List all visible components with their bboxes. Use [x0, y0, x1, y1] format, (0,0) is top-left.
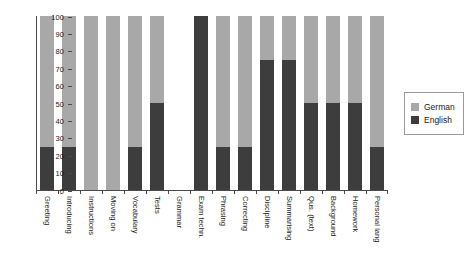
bar-segment-english[interactable] — [348, 103, 362, 190]
x-axis-label-slot: Personal lang — [366, 196, 388, 262]
bar-segment-german[interactable] — [238, 16, 252, 147]
x-axis-label: Qus. (text) — [307, 196, 316, 232]
legend-swatch-icon — [411, 116, 419, 124]
x-axis-tick — [168, 190, 190, 194]
bar-segment-english[interactable] — [260, 60, 274, 191]
bar-slot — [190, 16, 212, 190]
stacked-bar[interactable] — [282, 16, 296, 190]
x-axis-tick — [256, 190, 278, 194]
x-axis-tick-mark — [58, 190, 59, 194]
stacked-bar[interactable] — [260, 16, 274, 190]
bar-segment-english[interactable] — [216, 147, 230, 191]
bar-segment-english[interactable] — [282, 60, 296, 191]
stacked-bar[interactable] — [106, 16, 120, 190]
x-axis-label-slot: Correcting — [234, 196, 256, 262]
y-axis-tick-label: 90 — [55, 29, 64, 38]
x-axis-label-slot: Moving on — [102, 196, 124, 262]
y-axis-tick-label: 30 — [55, 134, 64, 143]
bar-segment-english[interactable] — [304, 103, 318, 190]
stacked-bar[interactable] — [150, 16, 164, 190]
bar-segment-german[interactable] — [128, 16, 142, 147]
stacked-bar[interactable] — [370, 16, 384, 190]
y-axis-tick-mark — [68, 156, 72, 157]
bar-segment-german[interactable] — [260, 16, 274, 60]
y-axis-tick-label: 50 — [55, 99, 64, 108]
bar-segment-german[interactable] — [62, 16, 76, 147]
x-axis-label-slot: Greeting — [36, 196, 58, 262]
bar-segment-english[interactable] — [194, 16, 208, 190]
y-axis-tick-label: 20 — [55, 151, 64, 160]
bar-segment-german[interactable] — [304, 16, 318, 103]
x-axis-label: Moving on — [109, 196, 118, 231]
bar-slot — [366, 16, 388, 190]
bar-segment-english[interactable] — [238, 147, 252, 191]
legend-item[interactable]: English — [411, 115, 455, 125]
bar-segment-english[interactable] — [62, 147, 76, 191]
bar-slot — [234, 16, 256, 190]
legend-item[interactable]: German — [411, 102, 455, 112]
stacked-bar[interactable] — [348, 16, 362, 190]
stacked-bar[interactable] — [238, 16, 252, 190]
stacked-bar[interactable] — [84, 16, 98, 190]
stacked-bar[interactable] — [194, 16, 208, 190]
plot-area: 0102030405060708090100 — [36, 16, 388, 190]
x-axis-tick — [80, 190, 102, 194]
x-axis-tick-mark — [212, 190, 213, 194]
x-axis-tick — [102, 190, 124, 194]
bar-segment-german[interactable] — [326, 16, 340, 103]
bar-segment-german[interactable] — [216, 16, 230, 147]
y-axis-tick: 30 — [36, 138, 72, 139]
x-axis-label: Homework — [351, 196, 360, 232]
bar-segment-english[interactable] — [370, 147, 384, 191]
bar-segment-english[interactable] — [326, 103, 340, 190]
x-axis-tick — [124, 190, 146, 194]
x-axis-label: Discipline — [263, 196, 272, 229]
stacked-bar[interactable] — [216, 16, 230, 190]
bar-segment-german[interactable] — [150, 16, 164, 103]
y-axis-tick-mark — [68, 69, 72, 70]
stacked-bar[interactable] — [128, 16, 142, 190]
stacked-bar[interactable] — [326, 16, 340, 190]
x-axis-tick — [322, 190, 344, 194]
x-axis-tick — [36, 190, 58, 194]
legend-label: German — [424, 102, 455, 112]
legend-label: English — [424, 115, 452, 125]
x-axis-tick — [278, 190, 300, 194]
x-axis-label-slot: Vocabulary — [124, 196, 146, 262]
bar-slot — [256, 16, 278, 190]
y-axis-tick: 60 — [36, 86, 72, 87]
bar-slot — [80, 16, 102, 190]
x-axis-tick — [190, 190, 212, 194]
x-axis-label: Tests — [153, 196, 162, 214]
bar-segment-german[interactable] — [106, 16, 120, 190]
x-axis-tick — [212, 190, 234, 194]
bar-segment-english[interactable] — [150, 103, 164, 190]
bar-segment-german[interactable] — [348, 16, 362, 103]
y-axis-tick-mark — [68, 138, 72, 139]
bar-slot — [278, 16, 300, 190]
x-axis-tick-mark — [80, 190, 81, 194]
bar-segment-german[interactable] — [370, 16, 384, 147]
bar-segment-english[interactable] — [128, 147, 142, 191]
bar-slot — [124, 16, 146, 190]
bar-slot — [212, 16, 234, 190]
x-axis-label-slot: Background — [322, 196, 344, 262]
x-axis-tick-mark — [300, 190, 301, 194]
x-axis-label-slot: Phrasing — [212, 196, 234, 262]
bar-segment-english[interactable] — [40, 147, 54, 191]
bar-slot — [322, 16, 344, 190]
stacked-bar[interactable] — [304, 16, 318, 190]
x-axis-label-slot: Introducing — [58, 196, 80, 262]
x-axis-label: Personal lang — [373, 196, 382, 243]
x-axis-tick — [300, 190, 322, 194]
y-axis-tick-mark — [68, 34, 72, 35]
bar-segment-german[interactable] — [84, 16, 98, 190]
x-axis-tick — [234, 190, 256, 194]
bar-segment-german[interactable] — [40, 16, 54, 147]
x-axis-label: Correcting — [241, 196, 250, 231]
y-axis-tick-mark — [68, 17, 72, 18]
stacked-bar-chart: 0102030405060708090100 GreetingIntroduci… — [0, 0, 476, 266]
x-axis-label-slot: Tests — [146, 196, 168, 262]
x-axis-tick-mark — [190, 190, 191, 194]
bar-segment-german[interactable] — [282, 16, 296, 60]
